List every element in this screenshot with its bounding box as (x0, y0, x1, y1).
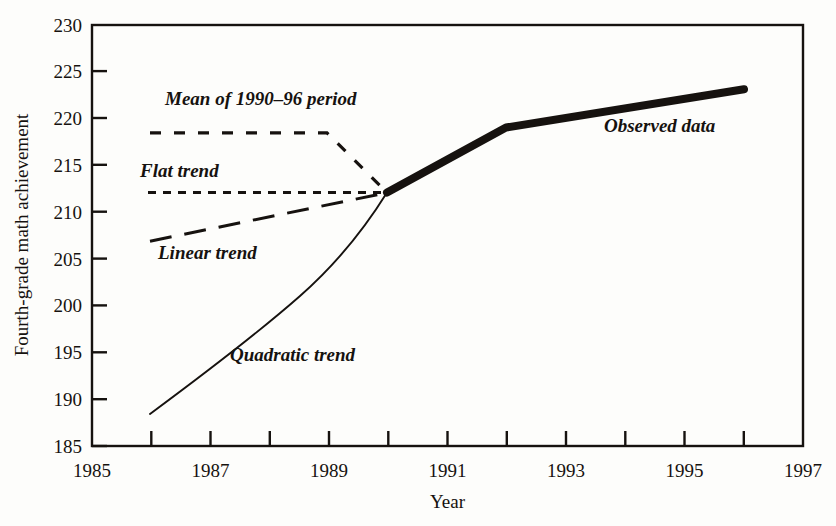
x-tick-label: 1987 (192, 460, 230, 481)
y-axis-title: Fourth-grade math achievement (11, 113, 32, 356)
x-tick-label: 1997 (784, 460, 822, 481)
x-axis-ticks (151, 431, 744, 446)
y-tick-label: 220 (54, 108, 83, 129)
chart-screenshot: 230 225 220 215 210 205 200 195 190 185 (0, 0, 836, 526)
x-tick-labels: 1985 1987 1989 1991 1993 1995 1997 (73, 460, 822, 481)
annotation-observed-data: Observed data (604, 115, 716, 136)
annotation-mean-of-period: Mean of 1990–96 period (164, 88, 357, 109)
x-tick-label: 1989 (310, 460, 348, 481)
x-axis-title: Year (430, 491, 466, 512)
series-linear-trend (150, 193, 388, 242)
y-axis-ticks (92, 71, 107, 446)
series-quadratic-trend (150, 193, 387, 415)
y-tick-label: 185 (54, 436, 83, 457)
line-chart: 230 225 220 215 210 205 200 195 190 185 (0, 0, 836, 526)
annotation-linear-trend: Linear trend (157, 242, 257, 263)
y-tick-label: 210 (54, 202, 83, 223)
y-tick-label: 200 (54, 295, 83, 316)
y-tick-label: 230 (54, 15, 83, 36)
annotation-flat-trend: Flat trend (139, 160, 219, 181)
y-tick-label: 190 (54, 389, 83, 410)
x-tick-label: 1995 (666, 460, 704, 481)
y-tick-label: 225 (54, 61, 83, 82)
y-tick-label: 195 (54, 342, 83, 363)
x-tick-label: 1985 (73, 460, 111, 481)
y-tick-labels: 230 225 220 215 210 205 200 195 190 185 (54, 15, 83, 457)
x-tick-label: 1993 (547, 460, 585, 481)
y-tick-label: 205 (54, 249, 83, 270)
y-tick-label: 215 (54, 155, 83, 176)
annotation-quadratic-trend: Quadratic trend (230, 344, 356, 365)
series-observed-data (387, 89, 744, 192)
x-tick-label: 1991 (429, 460, 467, 481)
